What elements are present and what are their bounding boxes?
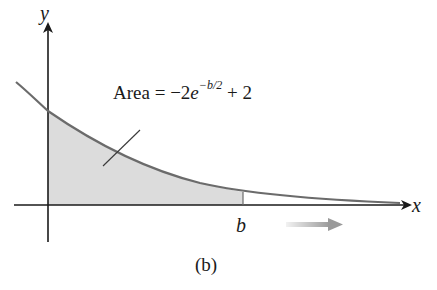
b-to-infinity-arrow-icon <box>286 218 343 231</box>
shaded-area <box>48 111 243 205</box>
area-annotation-prefix: Area = −2 <box>113 82 190 103</box>
area-annotation-base: e <box>190 82 198 103</box>
area-annotation-exponent: −b/2 <box>199 78 222 92</box>
figure-caption: (b) <box>195 254 217 276</box>
area-annotation: Area = −2e−b/2 + 2 <box>113 78 252 104</box>
b-marker-label: b <box>236 214 246 237</box>
area-annotation-suffix: + 2 <box>222 82 252 103</box>
x-axis-label: x <box>412 194 421 217</box>
y-axis-label: y <box>40 2 49 25</box>
graph-canvas <box>0 0 437 290</box>
